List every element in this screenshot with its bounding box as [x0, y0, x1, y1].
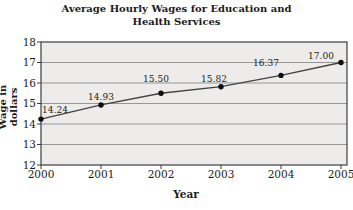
data-point-label: 15.50 [143, 74, 169, 84]
y-tick-label: 15 [23, 97, 36, 109]
x-tick-label: 2001 [88, 168, 115, 180]
data-point-label: 17.00 [308, 51, 334, 61]
chart-title-line1: Average Hourly Wages for Education and [0, 3, 353, 16]
x-axis-title: Year [41, 188, 331, 200]
x-tick-label: 2002 [148, 168, 175, 180]
y-tick-label: 18 [23, 38, 36, 48]
x-tick-label: 2000 [28, 168, 55, 180]
data-point [218, 84, 223, 89]
data-point-label: 14.93 [88, 92, 114, 102]
data-point [158, 91, 163, 96]
data-point-label: 15.82 [201, 74, 227, 84]
y-tick-label: 14 [23, 118, 37, 130]
data-point [98, 102, 103, 107]
data-point [338, 60, 343, 65]
chart-title: Average Hourly Wages for Education and H… [0, 3, 353, 28]
data-point-label: 16.37 [253, 58, 279, 68]
data-point [38, 116, 43, 121]
y-tick-label: 16 [23, 77, 37, 89]
x-tick-label: 2004 [268, 168, 295, 180]
data-point [278, 73, 283, 78]
x-tick-label: 2003 [208, 168, 235, 180]
data-point-label: 14.24 [42, 105, 68, 115]
x-tick-label: 2005 [328, 168, 353, 180]
plot-area: 1213141516171820002001200220032004200514… [0, 38, 353, 188]
chart-title-line2: Health Services [0, 16, 353, 29]
wage-chart-figure: Average Hourly Wages for Education and H… [0, 0, 353, 210]
y-tick-label: 13 [23, 138, 36, 150]
y-tick-label: 17 [23, 56, 36, 68]
